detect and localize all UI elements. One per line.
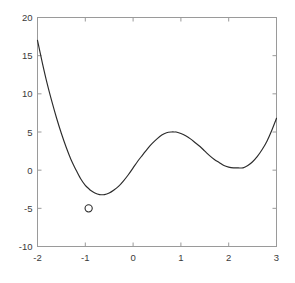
y-tick-label: -5 (24, 203, 32, 214)
y-tick-label: 0 (27, 165, 32, 176)
x-tick-label: -1 (81, 252, 89, 263)
x-tick-label: 3 (274, 252, 279, 263)
y-tick-label: -10 (19, 241, 33, 252)
y-tick-label: 10 (22, 88, 33, 99)
figure-container: -2-10123 -10-505101520 (0, 0, 295, 283)
y-tick-label: 15 (22, 50, 33, 61)
x-tick-label: 0 (130, 252, 135, 263)
x-tick-label: 2 (226, 252, 231, 263)
y-tick-label: 5 (27, 127, 32, 138)
plot-canvas: -2-10123 -10-505101520 (0, 0, 295, 283)
x-tick-label: 1 (178, 252, 183, 263)
y-tick-label: 20 (22, 12, 33, 23)
x-tick-label: -2 (33, 252, 41, 263)
figure-background (0, 0, 295, 283)
